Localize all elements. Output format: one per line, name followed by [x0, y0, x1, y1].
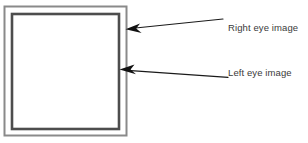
left-eye-image-frame [12, 14, 119, 129]
callout-label-right-eye: Right eye image [228, 22, 298, 33]
diagram-canvas: Right eye image Left eye image [0, 0, 308, 143]
callout-arrow-right-eye [126, 19, 224, 33]
leader-line-right-eye [133, 19, 223, 28]
leader-line-left-eye [131, 71, 228, 78]
arrowhead-right-eye [126, 24, 142, 33]
callout-label-left-eye: Left eye image [228, 67, 292, 78]
callout-arrow-left-eye [120, 65, 229, 78]
